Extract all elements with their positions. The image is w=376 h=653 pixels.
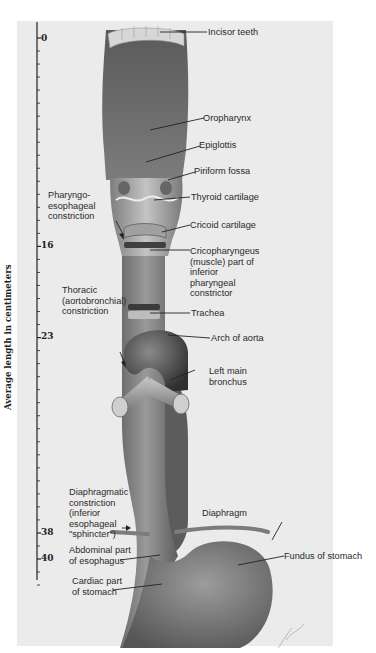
- label-abdominal-part: Abdominal part of esophagus: [69, 545, 131, 566]
- scale-axis-title: Average length in centimeters: [3, 264, 13, 410]
- tick-label-40: 40: [41, 553, 54, 563]
- label-cardiac-part: Cardiac part of stomach: [72, 576, 122, 597]
- label-cricopharyngeus: Cricopharyngeus (muscle) part of inferio…: [190, 246, 259, 299]
- tick-label-16: 16: [41, 240, 54, 250]
- label-thyroid-cartilage: Thyroid cartilage: [191, 192, 259, 203]
- oropharynx: [102, 30, 188, 180]
- label-epiglottis: Epiglottis: [199, 140, 236, 151]
- label-diaphragm: Diaphragm: [202, 508, 247, 519]
- label-arch-of-aorta: Arch of aorta: [211, 333, 264, 344]
- cricopharyngeus-band: [124, 242, 166, 248]
- label-diaphragmatic-constriction: Diaphragmatic constriction (inferior eso…: [69, 487, 128, 540]
- label-pharyngoesophageal-constriction: Pharyngo- esophageal constriction: [48, 190, 96, 222]
- label-left-main-bronchus: Left main bronchus: [209, 366, 247, 387]
- tick-label-23: 23: [41, 331, 54, 341]
- artist-signature: [278, 624, 304, 648]
- label-piriform-fossa: Piriform fossa: [194, 166, 250, 177]
- label-trachea: Trachea: [191, 308, 224, 319]
- trachea-ring: [128, 304, 160, 310]
- piriform-fossa-right: [160, 181, 172, 195]
- label-fundus-of-stomach: Fundus of stomach: [284, 551, 362, 562]
- tick-label-38: 38: [41, 527, 54, 537]
- label-oropharynx: Oropharynx: [203, 113, 251, 124]
- label-incisor-teeth: Incisor teeth: [208, 27, 258, 38]
- piriform-fossa-left: [118, 181, 130, 195]
- label-cricoid-cartilage: Cricoid cartilage: [190, 220, 256, 231]
- length-scale: [37, 22, 41, 585]
- tick-label-0: 0: [41, 33, 47, 43]
- label-thoracic-constriction: Thoracic (aortobronchial) constriction: [62, 285, 126, 317]
